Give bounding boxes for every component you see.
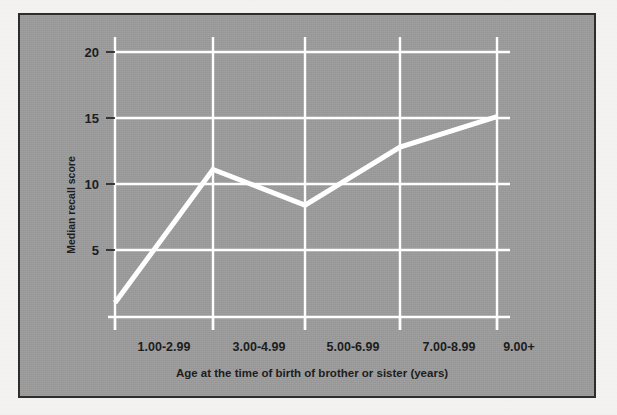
x-tick-label-0: 1.00-2.99: [138, 340, 191, 354]
horizontal-gridlines: [108, 52, 510, 317]
y-tick-marks: [106, 52, 115, 250]
y-tick-label-15: 15: [85, 111, 99, 126]
y-axis-title: Median recall score: [65, 156, 77, 254]
y-tick-label-5: 5: [92, 243, 99, 258]
x-tick-label-3: 7.00-8.99: [423, 340, 476, 354]
y-tick-label-20: 20: [85, 45, 99, 60]
x-axis-title: Age at the time of birth of brother or s…: [176, 367, 448, 379]
y-tick-label-10: 10: [85, 177, 99, 192]
x-tick-label-1: 3.00-4.99: [233, 340, 286, 354]
figure-container: 20 15 10 5 Median recall score 1.00-2.99…: [0, 0, 617, 415]
x-tick-label-4: 9.00+: [503, 340, 535, 354]
x-tick-marks: [115, 317, 497, 330]
line-chart: 20 15 10 5 Median recall score 1.00-2.99…: [0, 0, 617, 415]
x-tick-label-2: 5.00-6.99: [327, 340, 380, 354]
